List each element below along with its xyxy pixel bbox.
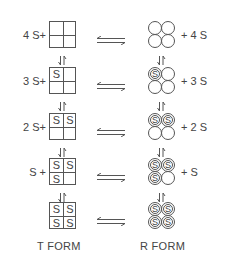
bound-ligand: S — [150, 69, 160, 79]
bound-ligand: S — [150, 217, 160, 227]
r-subunit-circle — [148, 80, 162, 94]
bound-ligand: S — [150, 173, 160, 183]
t-subunit-cell: S — [50, 216, 63, 229]
r-subunit-circle — [161, 67, 175, 81]
t-form-prefix: 3 S+ — [23, 75, 46, 87]
r-subunit-circle — [148, 21, 162, 35]
equilibrium-arrow-icon — [96, 212, 126, 230]
r-form-subunit-circles: SSSS — [148, 202, 176, 230]
t-form-prefix: S + — [29, 166, 46, 178]
r-form-suffix: + S — [181, 166, 198, 178]
t-subunit-cell — [50, 81, 63, 94]
t-subunit-cell: S — [50, 114, 63, 127]
r-subunit-circle — [161, 171, 175, 185]
r-form-suffix: + 2 S — [181, 121, 207, 133]
r-subunit-circle — [161, 126, 175, 140]
t-form-prefix: 2 S+ — [23, 121, 46, 133]
r-form-suffix: + 4 S — [181, 29, 207, 41]
t-subunit-cell — [63, 22, 76, 35]
r-form-label: R FORM — [140, 240, 185, 252]
t-subunit-cell: S — [63, 114, 76, 127]
r-form-subunit-circles: SS — [148, 113, 176, 141]
t-subunit-cell: S — [50, 203, 63, 216]
r-subunit-circle: S — [161, 158, 175, 172]
r-subunit-circle: S — [148, 215, 162, 229]
r-subunit-circle: S — [161, 215, 175, 229]
equilibrium-arrow-icon — [96, 31, 126, 49]
r-form-suffix: + 3 S — [181, 75, 207, 87]
equilibrium-arrow-icon — [96, 77, 126, 95]
t-subunit-cell: S — [63, 159, 76, 172]
r-subunit-circle — [161, 34, 175, 48]
bound-ligand: S — [150, 204, 160, 214]
r-subunit-circle: S — [148, 113, 162, 127]
r-subunit-circle: S — [148, 158, 162, 172]
r-subunit-circle: S — [148, 171, 162, 185]
t-form-subunit-square: SSS — [49, 158, 76, 185]
bound-ligand: S — [163, 160, 173, 170]
bound-ligand: S — [163, 204, 173, 214]
t-form-label: T FORM — [37, 240, 81, 252]
r-form-subunit-circles — [148, 21, 176, 49]
t-subunit-cell: S — [50, 159, 63, 172]
t-subunit-cell — [50, 22, 63, 35]
t-form-subunit-square — [49, 21, 76, 48]
t-subunit-cell — [50, 127, 63, 140]
t-subunit-cell — [63, 68, 76, 81]
r-subunit-circle: S — [148, 67, 162, 81]
bound-ligand: S — [163, 115, 173, 125]
r-subunit-circle: S — [161, 113, 175, 127]
r-subunit-circle — [161, 80, 175, 94]
t-form-subunit-square: SSSS — [49, 202, 76, 229]
r-subunit-circle: S — [148, 202, 162, 216]
t-subunit-cell: S — [63, 203, 76, 216]
r-form-subunit-circles: SSS — [148, 158, 176, 186]
r-subunit-circle — [148, 34, 162, 48]
t-subunit-cell — [63, 35, 76, 48]
r-form-subunit-circles: S — [148, 67, 176, 95]
t-form-subunit-square: S — [49, 67, 76, 94]
t-subunit-cell: S — [50, 68, 63, 81]
t-subunit-cell: S — [50, 172, 63, 185]
r-subunit-circle: S — [161, 202, 175, 216]
t-subunit-cell — [63, 172, 76, 185]
t-subunit-cell — [63, 127, 76, 140]
bound-ligand: S — [163, 217, 173, 227]
equilibrium-arrow-icon — [96, 123, 126, 141]
r-subunit-circle — [148, 126, 162, 140]
t-subunit-cell: S — [63, 216, 76, 229]
t-subunit-cell — [50, 35, 63, 48]
r-subunit-circle — [161, 21, 175, 35]
t-subunit-cell — [63, 81, 76, 94]
bound-ligand: S — [150, 160, 160, 170]
equilibrium-arrow-icon — [96, 168, 126, 186]
bound-ligand: S — [150, 115, 160, 125]
t-form-prefix: 4 S+ — [23, 29, 46, 41]
t-form-subunit-square: SS — [49, 113, 76, 140]
